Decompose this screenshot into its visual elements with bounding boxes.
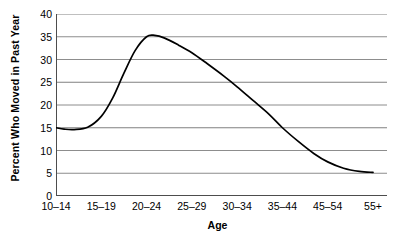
x-axis-title: Age bbox=[0, 219, 401, 231]
line-chart-svg bbox=[56, 14, 387, 196]
y-tick-label: 15 bbox=[40, 122, 52, 134]
x-tick-label: 15–19 bbox=[87, 200, 116, 212]
y-tick-label: 40 bbox=[40, 8, 52, 20]
x-axis-title-text: Age bbox=[208, 219, 228, 231]
x-tick-label: 35–44 bbox=[268, 200, 297, 212]
y-axis-title: Percent Who Moved in Past Year bbox=[4, 0, 26, 196]
x-tick-label: 55+ bbox=[364, 200, 382, 212]
y-tick-label: 10 bbox=[40, 145, 52, 157]
chart-figure: Percent Who Moved in Past Year 051015202… bbox=[0, 0, 401, 242]
y-tick-label: 35 bbox=[40, 31, 52, 43]
x-axis-tick-labels: 10–1415–1920–2425–2930–3435–4445–5455+ bbox=[0, 200, 401, 216]
x-tick-label: 25–29 bbox=[177, 200, 206, 212]
x-tick-label: 30–34 bbox=[223, 200, 252, 212]
x-tick-label: 45–54 bbox=[313, 200, 342, 212]
x-tick-label: 20–24 bbox=[132, 200, 161, 212]
y-tick-label: 5 bbox=[46, 167, 52, 179]
y-tick-label: 20 bbox=[40, 99, 52, 111]
y-tick-label: 25 bbox=[40, 76, 52, 88]
data-series-line bbox=[56, 35, 373, 172]
gridlines bbox=[56, 14, 387, 173]
x-tick-label: 10–14 bbox=[41, 200, 70, 212]
y-tick-label: 30 bbox=[40, 54, 52, 66]
plot-area bbox=[56, 14, 387, 196]
